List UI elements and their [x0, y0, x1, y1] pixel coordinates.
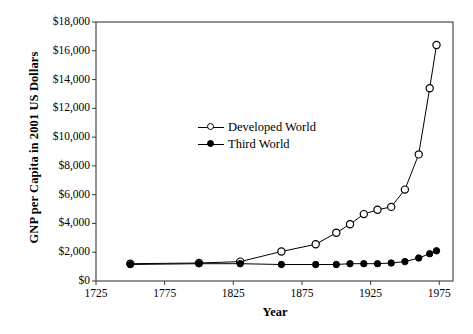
x-axis-tick-label: 1875 — [272, 287, 332, 299]
data-point-third-world — [127, 261, 133, 267]
legend-item-developed-world: Developed World — [198, 119, 316, 136]
data-point-developed-world — [401, 186, 408, 193]
data-point-third-world — [361, 261, 367, 267]
y-axis-tick-label: $0 — [34, 275, 90, 287]
x-axis-title: Year — [96, 305, 454, 320]
data-point-developed-world — [360, 211, 367, 218]
y-axis-tick-labels: $0$2,000$4,000$6,000$8,000$10,000$12,000… — [32, 0, 90, 334]
y-axis-tick-label: $2,000 — [34, 246, 90, 258]
data-point-third-world — [313, 261, 319, 267]
data-point-developed-world — [388, 203, 395, 210]
data-point-developed-world — [278, 248, 285, 255]
y-axis-tick-label: $4,000 — [34, 218, 90, 230]
chart-figure: GNP per Capita in 2001 US Dollars Year $… — [0, 0, 473, 334]
x-axis-tick-label: 1825 — [203, 287, 263, 299]
y-axis-tick-label: $12,000 — [34, 103, 90, 115]
y-axis-tick-label: $8,000 — [34, 160, 90, 172]
data-point-third-world — [347, 261, 353, 267]
legend-label-third-world: Third World — [228, 136, 290, 153]
legend-item-third-world: Third World — [198, 136, 316, 153]
data-point-developed-world — [312, 241, 319, 248]
data-point-developed-world — [415, 151, 422, 158]
legend-label-developed-world: Developed World — [228, 119, 316, 136]
data-point-third-world — [374, 261, 380, 267]
x-axis-tick-label: 1725 — [66, 287, 126, 299]
data-point-third-world — [278, 261, 284, 267]
data-point-developed-world — [374, 206, 381, 213]
open-circle-marker-icon — [198, 119, 224, 136]
data-point-third-world — [388, 260, 394, 266]
y-axis-tick-label: $16,000 — [34, 45, 90, 57]
y-axis-tick-label: $18,000 — [34, 16, 90, 28]
data-point-developed-world — [333, 229, 340, 236]
data-point-third-world — [427, 251, 433, 257]
data-point-third-world — [333, 261, 339, 267]
chart-legend: Developed World Third World — [198, 119, 316, 153]
y-axis-tick-label: $14,000 — [34, 74, 90, 86]
data-point-third-world — [416, 255, 422, 261]
data-point-third-world — [237, 261, 243, 267]
data-point-third-world — [433, 248, 439, 254]
filled-circle-marker-icon — [198, 136, 224, 153]
x-axis-tick-label: 1775 — [135, 287, 195, 299]
data-point-developed-world — [346, 221, 353, 228]
x-axis-tick-label: 1975 — [409, 287, 469, 299]
series-line-developed-world — [130, 45, 436, 264]
data-point-developed-world — [433, 41, 440, 48]
data-point-third-world — [402, 258, 408, 264]
data-point-third-world — [196, 261, 202, 267]
data-point-developed-world — [426, 85, 433, 92]
y-axis-tick-label: $10,000 — [34, 131, 90, 143]
y-axis-tick-label: $6,000 — [34, 189, 90, 201]
x-axis-tick-label: 1925 — [341, 287, 401, 299]
